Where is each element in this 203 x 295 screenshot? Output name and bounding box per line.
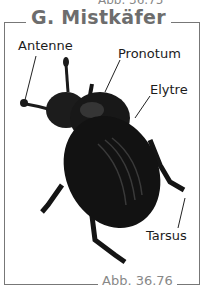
label-tarsus: Tarsus	[146, 228, 187, 243]
label-pronotum: Pronotum	[118, 46, 181, 61]
figure-title: G. Mistkäfer	[26, 6, 171, 28]
label-elytre: Elytre	[150, 82, 188, 97]
figure-caption: Abb. 36.76	[98, 273, 177, 288]
label-antenne: Antenne	[18, 38, 73, 53]
